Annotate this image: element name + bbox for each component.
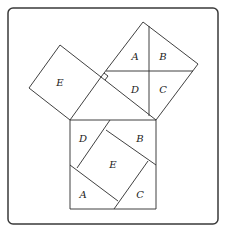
piece-label-e-small: E bbox=[55, 77, 64, 88]
piece-label-b-large: B bbox=[158, 51, 166, 62]
piece-label-d-large: D bbox=[130, 84, 139, 95]
piece-label-c-large: C bbox=[159, 84, 167, 95]
piece-label-b-hyp: B bbox=[135, 133, 143, 144]
piece-label-a-large: A bbox=[130, 51, 138, 62]
piece-label-c-hyp: C bbox=[136, 189, 144, 200]
piece-label-d-hyp: D bbox=[78, 133, 87, 144]
pythagorean-dissection-diagram: EABDCDBEAC bbox=[0, 0, 226, 233]
diagram-frame bbox=[8, 8, 218, 224]
piece-label-e-hyp: E bbox=[108, 159, 117, 170]
piece-label-a-hyp: A bbox=[78, 189, 86, 200]
